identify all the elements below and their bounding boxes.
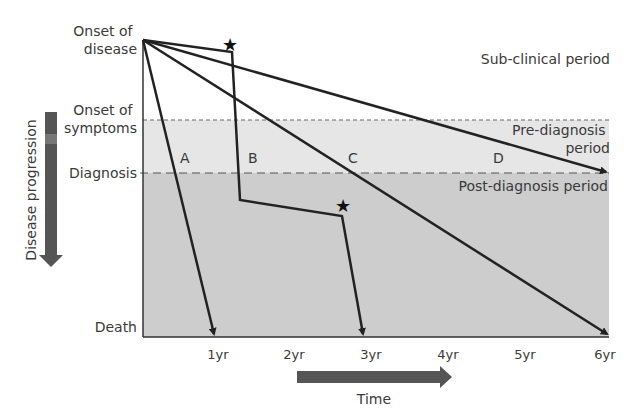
label-a: A xyxy=(180,150,190,166)
tick-4yr: 4yr xyxy=(437,347,459,362)
svg-text:Onset of symptoms: Onset of symptoms xyxy=(64,102,137,136)
progression-arrow-band xyxy=(45,134,57,144)
tick-3yr: 3yr xyxy=(360,347,382,362)
label-postdiagnosis: Post-diagnosis period xyxy=(458,178,608,194)
label-subclinical: Sub-clinical period xyxy=(481,51,610,67)
label-c: C xyxy=(348,150,358,166)
label-onset-disease: Onset of xyxy=(73,23,133,39)
star-icon: ★ xyxy=(335,195,351,216)
post-diagnosis-region xyxy=(143,173,609,337)
label-onset-symptoms: Onset of xyxy=(73,102,133,118)
label-diagnosis: Diagnosis xyxy=(69,165,137,181)
tick-1yr: 1yr xyxy=(207,347,229,362)
time-arrow-icon xyxy=(297,366,452,388)
star-icon: ★ xyxy=(222,34,238,55)
label-death: Death xyxy=(95,319,137,335)
label-prediagnosis: Pre-diagnosis xyxy=(512,122,605,138)
label-b: B xyxy=(248,150,258,166)
y-axis-label: Disease progression xyxy=(23,119,39,260)
tick-6yr: 6yr xyxy=(594,347,616,362)
x-axis-label: Time xyxy=(356,391,391,407)
disease-progression-diagram: ★ ★ Onset of disease Onset of symptoms D… xyxy=(0,0,627,416)
tick-5yr: 5yr xyxy=(514,347,536,362)
svg-text:Onset of disease: Onset of disease xyxy=(73,23,137,57)
label-d: D xyxy=(493,150,504,166)
tick-2yr: 2yr xyxy=(283,347,305,362)
